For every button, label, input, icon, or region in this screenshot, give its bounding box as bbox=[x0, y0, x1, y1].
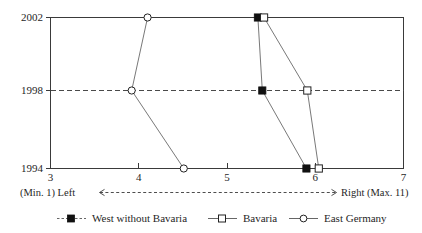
series-markers bbox=[128, 14, 322, 172]
plot-frame bbox=[51, 18, 404, 169]
data-point-east-germany-2002 bbox=[144, 14, 151, 21]
legend-label-west-without-bavaria: West without Bavaria bbox=[92, 212, 187, 224]
data-point-bavaria-1994 bbox=[315, 165, 322, 172]
legend-marker-open-circle-icon bbox=[300, 215, 307, 222]
x-tick-label-6: 6 bbox=[313, 171, 319, 183]
y-tick-label-1994: 1994 bbox=[21, 162, 44, 174]
y-tick-labels: 2002 1998 1994 bbox=[21, 11, 44, 174]
legend-item-east-germany[interactable]: East Germany bbox=[289, 212, 387, 224]
y-tick-label-1998: 1998 bbox=[21, 84, 44, 96]
legend-item-bavaria[interactable]: Bavaria bbox=[208, 212, 277, 224]
y-tick-marks bbox=[46, 18, 51, 169]
line-chart-plot: 2002 1998 1994 3 4 5 6 7 (Min. 1) Left R… bbox=[0, 0, 422, 233]
legend-label-bavaria: Bavaria bbox=[243, 212, 277, 224]
x-tick-label-4: 4 bbox=[136, 171, 142, 183]
data-point-west-without-bavaria-1994 bbox=[303, 165, 310, 172]
chart-legend: West without Bavaria Bavaria East German… bbox=[57, 212, 387, 224]
y-tick-label-2002: 2002 bbox=[21, 11, 43, 23]
x-tick-labels: 3 4 5 6 7 bbox=[48, 171, 407, 183]
data-point-east-germany-1998 bbox=[128, 87, 135, 94]
data-point-west-without-bavaria-1998 bbox=[259, 87, 266, 94]
x-tick-label-7: 7 bbox=[401, 171, 407, 183]
data-point-east-germany-1994 bbox=[180, 165, 187, 172]
axis-caption-left: (Min. 1) Left bbox=[20, 187, 75, 199]
legend-item-west-without-bavaria[interactable]: West without Bavaria bbox=[57, 212, 187, 224]
axis-caption-row: (Min. 1) Left Right (Max. 11) bbox=[20, 187, 409, 199]
x-tick-marks bbox=[51, 163, 404, 169]
data-point-bavaria-1998 bbox=[304, 87, 311, 94]
series-lines bbox=[132, 18, 319, 169]
chart-figure: 2002 1998 1994 3 4 5 6 7 (Min. 1) Left R… bbox=[0, 0, 422, 233]
data-point-bavaria-2002 bbox=[260, 14, 267, 21]
axis-caption-right: Right (Max. 11) bbox=[341, 187, 409, 199]
series-line-east-germany bbox=[132, 18, 184, 169]
legend-label-east-germany: East Germany bbox=[324, 212, 387, 224]
x-tick-label-5: 5 bbox=[224, 171, 230, 183]
legend-marker-filled-square-icon bbox=[68, 215, 75, 222]
x-tick-label-3: 3 bbox=[48, 171, 54, 183]
legend-marker-open-square-icon bbox=[219, 215, 226, 222]
